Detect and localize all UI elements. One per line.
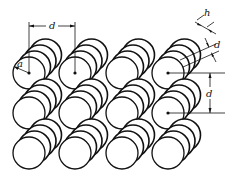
label-row-d: d (206, 88, 212, 99)
disc (106, 137, 138, 169)
label-thickness-h: h (204, 7, 210, 18)
label-pitch-d: d (49, 20, 55, 31)
disc-array-diagram: d a h d d (0, 0, 230, 181)
disc (152, 137, 184, 169)
diagram-canvas: d a h d d (0, 0, 230, 181)
label-radius-a: a (17, 58, 23, 69)
dimension-thickness: h (195, 7, 216, 34)
label-stack-d: d (214, 39, 220, 50)
disc (13, 137, 45, 169)
disc-array (13, 39, 201, 169)
disc (59, 137, 91, 169)
